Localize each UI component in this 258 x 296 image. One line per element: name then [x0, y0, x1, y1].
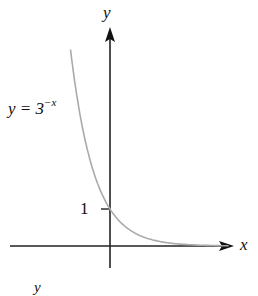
curve-equation-exponent: −x	[44, 96, 56, 108]
stray-y-label: y	[34, 280, 41, 295]
curve-3-pow-neg-x	[71, 50, 229, 246]
curve-equation-base: y = 3	[8, 99, 44, 118]
curve-equation-label: y = 3−x	[8, 98, 56, 117]
graph-canvas	[0, 0, 258, 296]
y-tick-label-1: 1	[80, 200, 89, 217]
y-axis-label: y	[103, 4, 111, 21]
x-axis-label: x	[240, 236, 248, 253]
